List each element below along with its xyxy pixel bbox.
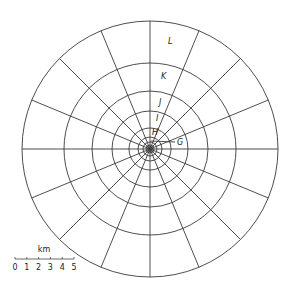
zone-labels: L K J I H G xyxy=(152,37,183,147)
scale-unit-label: km xyxy=(38,245,51,254)
spoke-6 xyxy=(150,149,241,240)
spoke-9 xyxy=(101,149,150,267)
scale-tick-label-4: 4 xyxy=(60,263,65,272)
zone-label-h: H xyxy=(152,128,158,137)
scale-tick-label-0: 0 xyxy=(12,263,17,272)
spoke-11 xyxy=(32,149,150,198)
scale-bar: km 012345 xyxy=(12,245,76,272)
scale-tick-label-2: 2 xyxy=(36,263,41,272)
zone-label-k: K xyxy=(161,72,167,81)
zone-label-l: L xyxy=(168,37,172,46)
scale-tick-label-1: 1 xyxy=(24,263,29,272)
spoke-5 xyxy=(150,149,268,198)
spoke-14 xyxy=(59,58,150,149)
spoke-7 xyxy=(150,149,199,267)
spoke-13 xyxy=(32,100,150,149)
zone-label-j: J xyxy=(157,98,162,107)
spoke-15 xyxy=(101,31,150,149)
spoke-10 xyxy=(59,149,150,240)
g-leader-line xyxy=(151,141,175,142)
zone-label-i: I xyxy=(156,114,159,123)
scale-tick-label-5: 5 xyxy=(71,263,76,272)
radial-spokes xyxy=(22,21,278,277)
concentric-zone-diagram: L K J I H G km 012345 xyxy=(0,0,291,290)
scale-tick-label-3: 3 xyxy=(48,263,53,272)
zone-label-g: G xyxy=(177,138,183,147)
